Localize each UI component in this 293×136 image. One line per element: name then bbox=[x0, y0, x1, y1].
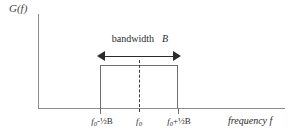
x-tick-label-upper-sub: 0 bbox=[170, 120, 173, 127]
x-tick-label-center-sub: 0 bbox=[139, 120, 142, 127]
bandwidth-symbol: B bbox=[162, 33, 168, 44]
x-tick-label-upper: f0+½B bbox=[157, 116, 201, 126]
bandwidth-double-arrow bbox=[97, 51, 181, 63]
bandwidth-spectrum-figure: G(f) bandwidthB f0-½B f0 f0+½B frequency… bbox=[0, 0, 293, 136]
x-tick-label-lower: f0-½B bbox=[80, 116, 124, 126]
y-axis-line bbox=[38, 14, 39, 109]
x-tick-upper bbox=[178, 108, 179, 114]
x-axis-caption: frequency f bbox=[228, 115, 272, 126]
bandwidth-caption: bandwidthB bbox=[98, 33, 182, 44]
x-tick-label-lower-suffix: -½B bbox=[97, 116, 113, 126]
x-axis-line bbox=[38, 108, 285, 109]
y-axis-label: G(f) bbox=[9, 2, 27, 14]
center-frequency-dashed-line bbox=[139, 60, 140, 112]
y-axis-label-text: G(f) bbox=[9, 2, 27, 14]
arrow-shaft bbox=[102, 56, 176, 57]
bandwidth-caption-text: bandwidth bbox=[112, 33, 154, 44]
x-tick-label-center: f0 bbox=[126, 116, 152, 126]
x-tick-lower bbox=[100, 108, 101, 114]
x-tick-label-lower-sub: 0 bbox=[94, 120, 97, 127]
x-tick-label-upper-suffix: +½B bbox=[173, 116, 191, 126]
arrow-right-head-icon bbox=[173, 51, 181, 61]
